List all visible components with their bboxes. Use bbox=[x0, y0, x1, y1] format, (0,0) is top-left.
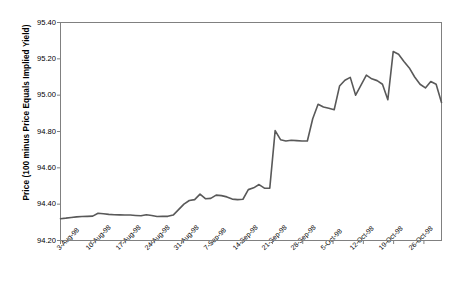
y-tick-marks bbox=[57, 23, 61, 241]
plot-border bbox=[61, 23, 442, 241]
chart-container: Price (100 minus Price Equals Implied Yi… bbox=[0, 0, 455, 293]
plot-area bbox=[0, 0, 455, 293]
data-series-line bbox=[61, 52, 442, 219]
plot-frame bbox=[61, 23, 442, 241]
x-tick-marks bbox=[61, 241, 424, 245]
